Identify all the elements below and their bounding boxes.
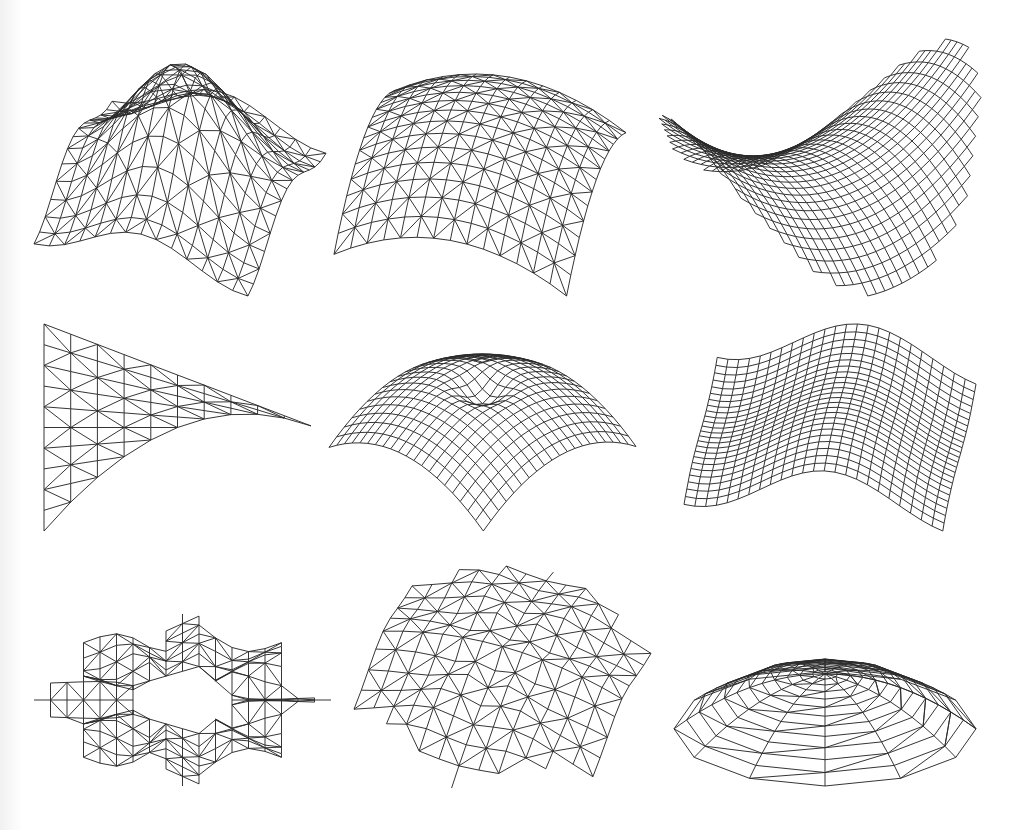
four-lobed-vault-wireframe-icon: [30, 60, 330, 300]
wavy-sheet-wireframe-icon: [680, 320, 980, 535]
square-dome-wireframe-icon: [330, 70, 630, 300]
dome-with-central-dimple-mesh-lines: [329, 354, 636, 531]
perforated-ring-plate-wireframe-icon: [30, 610, 335, 790]
triangular-hypar-mesh-lines: [44, 324, 311, 531]
mesh-panel-radial-shallow-dome: [670, 655, 980, 790]
mesh-panel-perforated-ring-plate: [30, 610, 335, 790]
four-lobed-vault-mesh-lines: [34, 64, 326, 296]
radial-shallow-dome-mesh-lines: [674, 659, 976, 786]
perforated-ring-plate-mesh-lines: [34, 614, 331, 786]
twisted-saddle-shell-wireframe-icon: [655, 35, 985, 300]
hexagonal-dome-wireframe-icon: [350, 562, 655, 792]
twisted-saddle-shell-mesh-lines: [659, 39, 981, 296]
mesh-panel-four-lobed-vault: [30, 60, 330, 300]
mesh-panel-dome-with-central-dimple: [325, 350, 640, 535]
mesh-panel-twisted-saddle-shell: [655, 35, 985, 300]
square-dome-mesh-lines: [334, 74, 626, 296]
dome-with-central-dimple-wireframe-icon: [325, 350, 640, 535]
mesh-panel-wavy-sheet: [680, 320, 980, 535]
wavy-sheet-mesh-lines: [684, 324, 976, 531]
mesh-panel-triangular-hypar: [40, 320, 315, 535]
mesh-panel-square-dome: [330, 70, 630, 300]
hexagonal-dome-mesh-lines: [354, 566, 651, 788]
radial-shallow-dome-wireframe-icon: [670, 655, 980, 790]
wireframe-figure-grid: [0, 0, 1028, 830]
triangular-hypar-wireframe-icon: [40, 320, 315, 535]
mesh-panel-hexagonal-dome: [350, 562, 655, 792]
